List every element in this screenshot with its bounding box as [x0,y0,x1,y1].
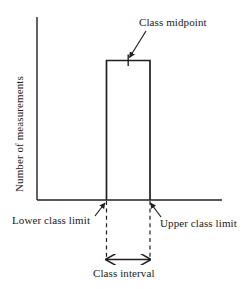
class-midpoint-leader-arrow [130,31,147,58]
histogram-class-interval-figure: Number of measurements Class midpoint Lo… [0,0,247,289]
y-axis-label: Number of measurements [14,0,25,192]
upper-class-limit-leader-arrow [151,203,162,217]
lower-class-limit-label: Lower class limit [12,215,90,226]
lower-class-limit-leader-arrow [95,203,105,216]
figure-drawing [0,0,247,289]
class-midpoint-label: Class midpoint [139,17,207,28]
histogram-bar [107,61,151,201]
upper-class-limit-label: Upper class limit [160,218,237,229]
class-interval-label: Class interval [93,268,155,279]
